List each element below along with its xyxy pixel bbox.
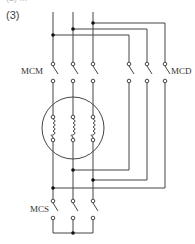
mcm-label: MCM [21,66,43,76]
mcs-label: MCS [30,204,49,214]
mcd-switches [127,62,170,83]
mcm-switches [51,62,98,83]
motor-windings [51,115,95,142]
mcd-label: MCD [171,66,192,76]
mcs-switches [51,199,98,220]
